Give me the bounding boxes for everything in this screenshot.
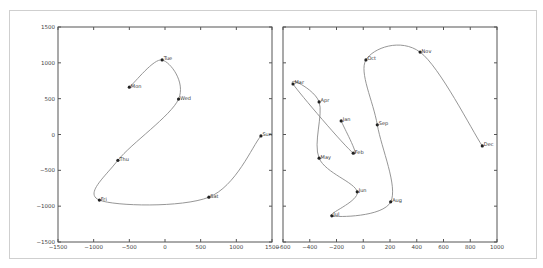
point-label-sun: Sun xyxy=(262,131,272,137)
x-tick-label: 0 xyxy=(362,244,366,250)
x-tick-label: −500 xyxy=(122,244,138,250)
y-tick-label: 0 xyxy=(52,132,56,138)
x-tick-label: 800 xyxy=(465,244,476,250)
x-tick-label: 1000 xyxy=(229,244,243,250)
point-label-jun: Jun xyxy=(358,187,367,193)
point-label-jan: Jan xyxy=(342,116,351,122)
point-label-may: May xyxy=(321,154,331,161)
point-label-fri: Fri xyxy=(101,196,107,202)
point-label-tue: Tue xyxy=(163,55,173,61)
x-tick-label: −400 xyxy=(302,244,318,250)
x-tick-label: 1000 xyxy=(490,244,504,250)
point-label-mar: Mar xyxy=(295,79,305,85)
y-tick-label: 1000 xyxy=(41,60,55,66)
y-tick-label: 1500 xyxy=(41,24,55,30)
left-chart-weekdays: −1500−1000−500050010001500−1500−1000−500… xyxy=(36,24,279,250)
x-tick-label: 600 xyxy=(438,244,449,250)
figure: −1500−1000−500050010001500−1500−1000−500… xyxy=(0,0,543,268)
y-tick-label: 500 xyxy=(45,96,56,102)
x-tick-label: −1000 xyxy=(84,244,103,250)
x-tick-label: 400 xyxy=(412,244,423,250)
x-tick-label: 200 xyxy=(385,244,396,250)
right-chart-months: −600−400−20002004006008001000JanFebMarAp… xyxy=(275,27,504,250)
point-label-apr: Apr xyxy=(321,97,331,104)
y-tick-label: −1500 xyxy=(36,239,55,245)
point-label-dec: Dec xyxy=(484,141,494,147)
point-label-thu: Thu xyxy=(118,156,128,162)
x-tick-label: 500 xyxy=(195,244,206,250)
x-tick-label: −200 xyxy=(329,244,345,250)
point-label-mon: Mon xyxy=(131,83,142,89)
plot-area xyxy=(283,27,497,242)
y-tick-label: −500 xyxy=(40,167,56,173)
point-label-nov: Nov xyxy=(422,48,432,54)
x-tick-label: −600 xyxy=(275,244,291,250)
point-label-sep: Sep xyxy=(379,120,388,127)
point-label-jul: Jul xyxy=(332,211,339,217)
point-label-aug: Aug xyxy=(392,197,402,204)
point-label-sat: Sat xyxy=(210,193,218,199)
x-tick-label: 0 xyxy=(163,244,167,250)
point-label-oct: Oct xyxy=(367,55,376,61)
y-tick-label: −1000 xyxy=(36,203,55,209)
point-label-wed: Wed xyxy=(180,95,191,101)
point-label-feb: Feb xyxy=(355,149,364,155)
